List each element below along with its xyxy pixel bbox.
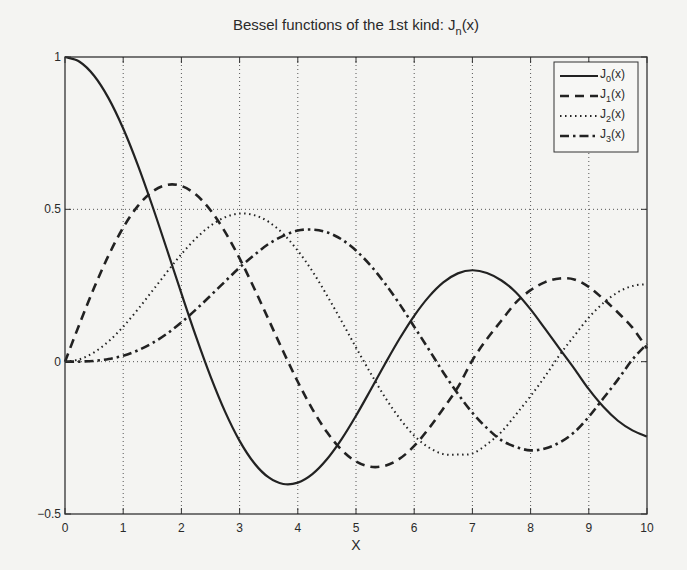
y-tick-label: 0 <box>54 355 61 369</box>
x-tick-label: 3 <box>236 521 243 535</box>
y-tick-label: 1 <box>54 50 61 64</box>
chart-title: Bessel functions of the 1st kind: Jn(x) <box>233 16 479 37</box>
y-tick-label: −0.5 <box>37 507 61 521</box>
legend: J0(x)J1(x)J2(x)J3(x) <box>554 62 638 152</box>
bessel-chart: 012345678910−0.500.51 Bessel functions o… <box>0 0 687 570</box>
x-tick-label: 10 <box>640 521 654 535</box>
chart-title-suffix: (x) <box>462 16 480 33</box>
x-tick-label: 8 <box>527 521 534 535</box>
x-tick-label: 1 <box>120 521 127 535</box>
x-tick-label: 7 <box>469 521 476 535</box>
y-tick-label: 0.5 <box>44 202 61 216</box>
x-tick-label: 2 <box>178 521 185 535</box>
x-tick-label: 5 <box>353 521 360 535</box>
x-tick-label: 9 <box>585 521 592 535</box>
x-tick-label: 0 <box>62 521 69 535</box>
x-tick-label: 6 <box>411 521 418 535</box>
x-axis-label: X <box>351 537 361 553</box>
x-tick-label: 4 <box>294 521 301 535</box>
chart-title-main: Bessel functions of the 1st kind: J <box>233 16 456 33</box>
